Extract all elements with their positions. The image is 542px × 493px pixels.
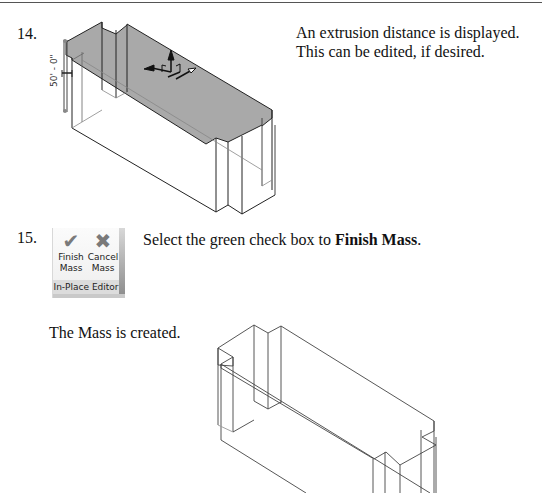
extrusion-figure: 50' - 0" — [0, 0, 290, 220]
panel-title: In-Place Editor — [53, 280, 119, 294]
step-15-bold: Finish Mass — [335, 231, 417, 248]
step-14-line-1: An extrusion distance is displayed. — [296, 23, 520, 42]
mass-figure — [0, 300, 542, 493]
cancel-label-2: Mass — [87, 263, 119, 274]
step-15-prefix: Select the green check box to — [143, 231, 335, 248]
finish-label-2: Mass — [55, 263, 87, 274]
step-14-line-2: This can be edited, if desired. — [296, 42, 520, 61]
x-icon: ✖ — [87, 230, 119, 252]
step-number-15: 15. — [17, 229, 37, 247]
finish-mass-button[interactable]: ✔ Finish Mass — [55, 230, 87, 276]
in-place-editor-panel: ✔ Finish Mass ✖ Cancel Mass In-Place Edi… — [52, 228, 125, 298]
panel-scroll-edge — [119, 228, 125, 298]
step-15-suffix: . — [417, 231, 421, 248]
dimension-label[interactable]: 50' - 0" — [49, 54, 59, 87]
finish-label-1: Finish — [55, 252, 87, 263]
step-14-description: An extrusion distance is displayed. This… — [296, 23, 520, 61]
cancel-mass-button[interactable]: ✖ Cancel Mass — [87, 230, 119, 276]
panel-bottom — [53, 294, 125, 298]
cancel-label-1: Cancel — [87, 252, 119, 263]
step-15-description: Select the green check box to Finish Mas… — [143, 230, 421, 249]
check-icon: ✔ — [55, 230, 87, 252]
